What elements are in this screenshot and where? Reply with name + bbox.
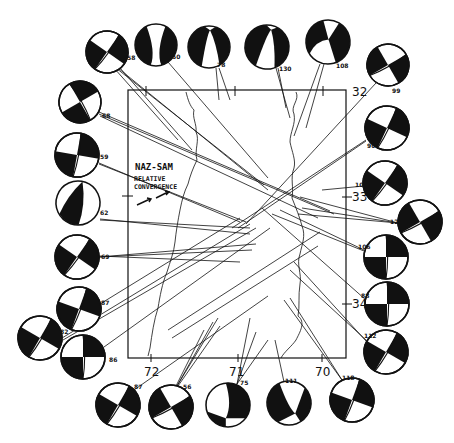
event-label-111: 111 (285, 377, 298, 384)
event-label-90: 90 (367, 142, 375, 149)
beach-ball-68 (51, 73, 108, 130)
longitude-labels: 72 71 70 (144, 365, 330, 379)
event-label-88: 88 (361, 292, 369, 299)
beach-ball-56 (141, 377, 201, 437)
event-label-106: 106 (358, 243, 371, 250)
lat-label-32: 32 (352, 85, 367, 99)
event-label-78: 78 (217, 61, 225, 68)
event-label-50: 50 (172, 53, 180, 60)
beach-ball-86 (61, 335, 105, 379)
beach-ball-112 (356, 322, 416, 382)
event-label-103: 103 (355, 181, 368, 188)
convergence-annotation: NAZ-SAM RELATIVE CONVERGENCE (134, 162, 177, 205)
event-label-108: 108 (336, 62, 349, 69)
event-label-118: 118 (342, 374, 355, 381)
beach-ball-62 (49, 174, 107, 232)
beach-ball-75 (206, 383, 250, 427)
event-label-62: 62 (100, 209, 108, 216)
event-label-99: 99 (392, 87, 400, 94)
event-label-130: 130 (279, 65, 292, 72)
event-label-58: 58 (127, 54, 135, 61)
event-label-112: 112 (364, 332, 377, 339)
beach-ball-69 (46, 226, 107, 287)
latitude-labels: 32 33 34 (352, 85, 367, 311)
lon-label-71: 71 (229, 365, 244, 379)
lon-label-70: 70 (315, 365, 330, 379)
annotation-line3: CONVERGENCE (134, 183, 177, 191)
annotation-line1: NAZ-SAM (135, 162, 174, 172)
event-label-69: 69 (101, 253, 109, 260)
beach-ball-108 (301, 15, 355, 69)
event-label-86: 86 (109, 356, 117, 363)
event-label-59: 59 (100, 153, 108, 160)
event-label-68: 68 (102, 112, 110, 119)
beach-ball-50 (135, 24, 177, 66)
arrow-icon (156, 191, 169, 198)
beach-ball-88 (365, 282, 409, 326)
map-frame (122, 86, 352, 362)
event-label-87b: 87 (134, 383, 142, 390)
annotation-line2: RELATIVE (134, 175, 165, 183)
beach-ball-99 (359, 36, 416, 93)
connector-lines (62, 62, 398, 390)
event-label-56: 56 (183, 383, 191, 390)
event-label-82: 82 (60, 328, 68, 335)
beach-ball-106 (364, 235, 408, 279)
beach-ball-59 (52, 130, 103, 181)
beach-ball-58 (78, 23, 136, 81)
event-labels: 5850781301089968905910362122691068788828… (60, 53, 403, 390)
arrow-icon (137, 198, 151, 205)
focal-mechanism-figure: NAZ-SAM RELATIVE CONVERGENCE 32 33 34 72… (0, 0, 454, 443)
lon-label-72: 72 (144, 365, 159, 379)
event-label-75: 75 (240, 379, 248, 386)
event-label-87a: 87 (101, 299, 109, 306)
event-label-122: 122 (390, 218, 403, 225)
